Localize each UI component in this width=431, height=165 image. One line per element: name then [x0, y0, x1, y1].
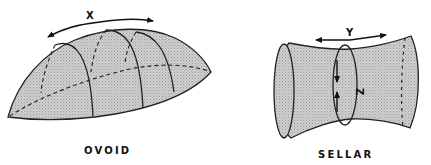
sellar-axis-label-y: Y [345, 27, 354, 38]
sellar-axis-label-z: Z [354, 88, 365, 95]
sellar-caption: SELLAR [318, 149, 373, 160]
ovoid-shape: X OVOID [8, 10, 211, 156]
ovoid-x-axis-arrow-right [100, 19, 153, 22]
sellar-shape: Y Z SELLAR [274, 27, 418, 160]
ovoid-caption: OVOID [84, 145, 131, 156]
sellar-y-axis-arrow-right [350, 35, 386, 40]
sellar-left-end [274, 44, 294, 138]
sellar-surface [276, 36, 418, 138]
ovoid-axis-label-x: X [86, 10, 94, 21]
surface-diagram: X OVOID Y Z SELLAR [0, 0, 431, 165]
